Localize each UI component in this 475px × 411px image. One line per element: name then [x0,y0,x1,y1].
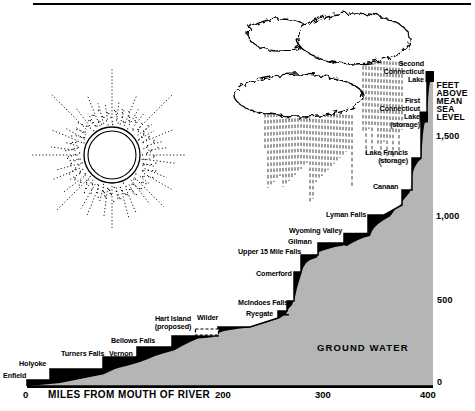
label-mcindoes-falls: McIndoes Falls [238,299,288,307]
cloud-icon [233,73,361,115]
first-connecticut-lake-dam-icon [420,112,429,123]
sun-icon [30,69,185,230]
label-lyman-falls: Lyman Falls [326,211,366,219]
x-tick-0: 0 [23,389,28,400]
x-tick-300: 300 [315,389,331,400]
label-comerford: Comerford [256,270,292,278]
y-axis-title: FEET ABOVE MEAN SEA LEVEL [437,81,468,121]
label-upper-15-mile-falls: Upper 15 Mile Falls [238,248,301,256]
y-tick-1500: 1,500 [436,131,460,141]
ground-water-label: GROUND WATER [317,342,409,353]
label-enfield: Enfield [3,372,26,380]
x-tick-200: 200 [215,389,231,400]
label-bellows-falls: Bellows Falls [111,337,155,345]
label-first-connecticut-lake: First Connecticut Lake (storage) [368,97,420,130]
y-tick-1000: 1,000 [436,211,460,221]
label-gilman: Gilman [288,238,312,246]
label-ryegate: Ryegate [246,310,273,318]
hart-island-proposed-dam [196,329,219,335]
x-axis-title: MILES FROM MOUTH OF RIVER [48,389,210,400]
cloud-icon [296,12,408,62]
label-lake-francis: Lake Francis (storage) [358,149,408,165]
label-wyoming-valley: Wyoming Valley [289,227,342,235]
label-canaan: Canaan [373,183,398,191]
y-tick-500: 500 [437,295,453,305]
x-tick-400: 400 [420,389,436,400]
label-wilder: Wilder [197,314,218,322]
y-tick-0: 0 [437,377,442,387]
label-vernon: Vernon [109,350,133,358]
sun-inner-circle [88,131,136,179]
label-holyoke: Holyoke [19,360,46,368]
label-second-connecticut-lake: Second Connecticut Lake [372,60,424,85]
river-profile-figure: Enfield Holyoke Turners Falls Vernon Bel… [0,0,475,411]
label-hart-island: Hart Island (proposed) [148,315,198,331]
rain-icon [265,112,352,202]
second-connecticut-lake-dam-icon [426,71,435,82]
label-turners-falls: Turners Falls [61,350,104,358]
